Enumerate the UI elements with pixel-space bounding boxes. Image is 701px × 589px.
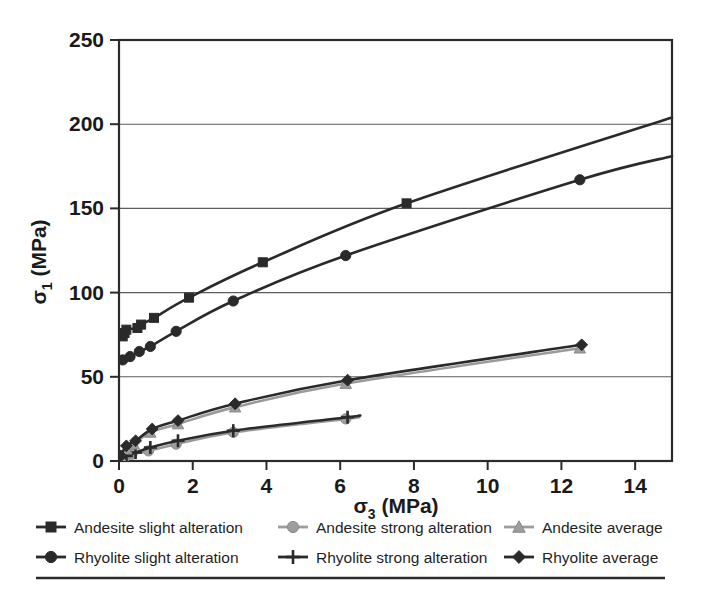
data-point-circle — [145, 341, 155, 351]
data-point-square — [402, 199, 411, 208]
x-axis-sigma: σ — [353, 494, 367, 517]
data-point-circle — [134, 346, 144, 356]
data-point-circle — [125, 351, 135, 361]
x-tick-label-12: 12 — [550, 474, 573, 497]
data-point-square — [137, 320, 146, 329]
chart-background — [0, 0, 701, 589]
legend-label: Rhyolite slight alteration — [74, 549, 239, 566]
y-tick-label-200: 200 — [69, 112, 104, 135]
data-point-square — [258, 258, 267, 267]
data-point-circle — [575, 175, 585, 185]
legend-label: Andesite slight alteration — [74, 519, 243, 536]
y-axis-unit: (MPa) — [27, 219, 50, 282]
legend-label: Andesite strong alteration — [316, 519, 492, 536]
y-tick-label-50: 50 — [81, 365, 104, 388]
legend-label: Rhyolite average — [542, 549, 658, 566]
data-point-square — [122, 325, 131, 334]
data-point-circle — [341, 250, 351, 260]
chart-figure: 050100150200250 02468101214 σ1 (MPa) σ3 … — [0, 0, 701, 589]
y-tick-label-150: 150 — [69, 196, 104, 219]
x-tick-label-6: 6 — [334, 474, 346, 497]
y-tick-label-250: 250 — [69, 28, 104, 51]
y-tick-label-100: 100 — [69, 281, 104, 304]
x-tick-label-10: 10 — [476, 474, 499, 497]
y-axis-sigma: σ — [27, 290, 50, 304]
x-tick-label-14: 14 — [623, 474, 647, 497]
y-tick-label-0: 0 — [92, 449, 104, 472]
legend-label: Rhyolite strong alteration — [316, 549, 487, 566]
x-tick-label-0: 0 — [113, 474, 125, 497]
x-axis-unit: (MPa) — [376, 494, 439, 517]
data-point-circle — [228, 296, 238, 306]
legend-marker-circle — [287, 521, 298, 532]
x-tick-label-2: 2 — [187, 474, 199, 497]
x-tick-label-4: 4 — [261, 474, 273, 497]
data-point-circle — [171, 326, 181, 336]
y-axis-subscript: 1 — [39, 282, 55, 290]
legend-label: Andesite average — [542, 519, 663, 536]
stress-scatter-chart: 050100150200250 02468101214 σ1 (MPa) σ3 … — [0, 0, 701, 589]
legend-marker-square — [46, 522, 56, 532]
data-point-square — [185, 293, 194, 302]
legend-marker-circle — [45, 551, 56, 562]
data-point-square — [150, 313, 159, 322]
